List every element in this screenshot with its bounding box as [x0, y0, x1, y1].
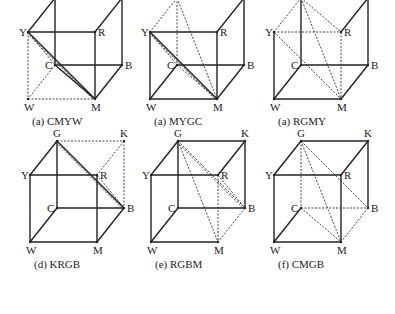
vertex-dot-R [94, 31, 96, 33]
vertex-label-Y: Y [265, 26, 273, 38]
vertex-label-M: M [337, 244, 347, 256]
vertex-label-M: M [93, 244, 103, 256]
vertex-label-C: C [45, 59, 52, 71]
vertex-dot-M [217, 241, 219, 243]
vertex-dot-R [216, 31, 218, 33]
vertex-dot-C [300, 207, 302, 209]
vertex-dot-Y [273, 174, 275, 176]
edge-BM [341, 208, 368, 242]
vertex-label-W: W [270, 244, 281, 256]
vertex-dot-C [177, 207, 179, 209]
caption-f: (f) CMGB [278, 258, 324, 271]
caption-e: (e) RGBM [155, 258, 203, 271]
vertex-dot-R [340, 174, 342, 176]
edge-GY [274, 0, 301, 32]
vertex-dot-Y [27, 31, 29, 33]
vertex-dot-C [56, 207, 58, 209]
vertex-dot-W [273, 241, 275, 243]
vertex-label-R: R [221, 169, 229, 181]
vertex-label-C: C [167, 59, 174, 71]
vertex-dot-B [244, 207, 246, 209]
vertex-dot-R [96, 174, 98, 176]
vertex-label-R: R [344, 169, 352, 181]
vertex-dot-Y [149, 31, 151, 33]
vertex-dot-R [340, 31, 342, 33]
vertex-dot-K [123, 140, 125, 142]
vertex-label-C: C [47, 202, 54, 214]
vertex-label-B: B [248, 202, 255, 214]
vertex-dot-C [54, 64, 56, 66]
vertex-dot-M [216, 98, 218, 100]
edge-BM [95, 65, 122, 99]
vertex-label-Y: Y [21, 169, 29, 181]
cube-diagrams: YRWMGKCB(a) CMYWYRWMGKCB(a) MYGCYRWMGKCB… [0, 0, 395, 314]
vertex-label-B: B [127, 202, 134, 214]
vertex-label-Y: Y [265, 169, 273, 181]
edge-GY [150, 0, 177, 32]
cube-a3: YRWMGKCB(a) RGMY [265, 0, 378, 128]
vertex-label-W: W [26, 244, 37, 256]
vertex-label-R: R [220, 26, 228, 38]
cube-a2: YRWMGKCB(a) MYGC [141, 0, 254, 128]
edge-GM [178, 141, 218, 242]
edge-GM [301, 141, 341, 242]
vertex-label-W: W [146, 101, 157, 113]
edge-GR [301, 0, 341, 32]
vertex-label-Y: Y [141, 26, 149, 38]
vertex-dot-Y [273, 31, 275, 33]
vertex-dot-W [149, 98, 151, 100]
vertex-label-K: K [120, 127, 128, 139]
vertex-dot-M [94, 98, 96, 100]
vertex-label-B: B [125, 59, 132, 71]
vertex-dot-G [56, 140, 58, 142]
edge-GY [151, 141, 178, 175]
vertex-dot-W [27, 98, 29, 100]
vertex-label-B: B [371, 59, 378, 71]
vertex-label-B: B [247, 59, 254, 71]
vertex-label-W: W [24, 101, 35, 113]
vertex-label-C: C [168, 202, 175, 214]
edge-CM [301, 208, 341, 242]
vertex-label-C: C [291, 202, 298, 214]
vertex-dot-C [176, 64, 178, 66]
vertex-label-M: M [91, 101, 101, 113]
vertex-dot-K [367, 140, 369, 142]
vertex-label-K: K [241, 127, 249, 139]
edge-BM [97, 208, 124, 242]
vertex-label-R: R [98, 26, 106, 38]
vertex-dot-Y [150, 174, 152, 176]
cube-a1: YRWMGKCB(a) CMYW [19, 0, 132, 128]
vertex-dot-M [96, 241, 98, 243]
edge-YM [149, 33, 216, 100]
vertex-dot-W [150, 241, 152, 243]
vertex-label-W: W [147, 244, 158, 256]
vertex-label-R: R [344, 26, 352, 38]
vertex-label-G: G [53, 127, 61, 139]
vertex-label-R: R [100, 169, 108, 181]
vertex-dot-B [243, 64, 245, 66]
vertex-dot-K [244, 140, 246, 142]
edge-GY [30, 141, 57, 175]
vertex-label-M: M [214, 244, 224, 256]
vertex-label-G: G [297, 127, 305, 139]
edge-GY [28, 0, 55, 32]
vertex-label-Y: Y [19, 26, 27, 38]
edge-BM [218, 208, 245, 242]
vertex-label-W: W [270, 101, 281, 113]
vertex-label-B: B [371, 202, 378, 214]
cube-f: YRWMGKCB(f) CMGB [265, 127, 378, 271]
cube-d: YRWMGKCB(d) KRGB [21, 127, 134, 271]
vertex-label-Y: Y [142, 169, 150, 181]
edge-GM [177, 0, 217, 99]
vertex-dot-M [340, 241, 342, 243]
edge-BM [217, 65, 244, 99]
vertex-dot-B [367, 207, 369, 209]
vertex-dot-M [340, 98, 342, 100]
vertex-dot-W [273, 98, 275, 100]
vertex-dot-B [121, 64, 123, 66]
vertex-label-M: M [337, 101, 347, 113]
vertex-dot-Y [29, 174, 31, 176]
vertex-dot-C [300, 64, 302, 66]
vertex-label-M: M [213, 101, 223, 113]
vertex-dot-G [300, 140, 302, 142]
